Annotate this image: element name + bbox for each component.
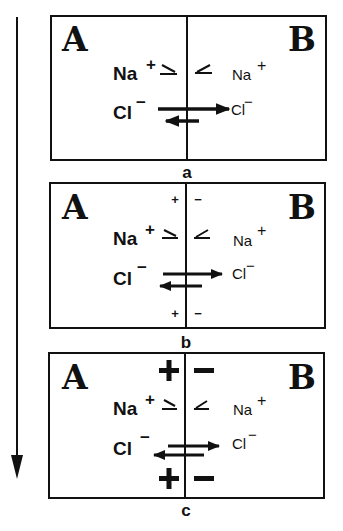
cl-left-label: Cl — [113, 268, 132, 289]
na-half-arrow-left-icon — [194, 401, 209, 409]
na-half-arrow-right-icon — [162, 230, 178, 238]
na-half-arrow-left-icon — [194, 230, 210, 238]
na-left-label: Na — [113, 63, 138, 84]
membrane-charge-bottom-right: − — [194, 306, 202, 321]
na-right-charge: + — [257, 392, 266, 409]
panel-c-caption: c — [181, 501, 190, 520]
compartment-a-label: A — [61, 20, 88, 59]
na-right-label: Na — [233, 232, 253, 249]
na-left-charge: + — [145, 220, 155, 239]
membrane-charge-minus-icon — [194, 476, 214, 481]
panel-frame — [50, 183, 325, 328]
compartment-a-label: A — [61, 358, 88, 397]
compartment-b-label: B — [288, 20, 316, 59]
na-left-charge: + — [146, 55, 156, 74]
membrane-charge-minus-icon — [194, 368, 214, 373]
panel-a-caption: a — [182, 163, 192, 182]
na-right-label: Na — [232, 66, 252, 83]
compartment-b-label: B — [288, 188, 316, 227]
na-left-label: Na — [113, 398, 138, 419]
cl-right-charge: − — [248, 426, 257, 443]
cl-left-charge: − — [137, 258, 147, 277]
membrane-charge-plus-icon — [159, 468, 179, 489]
na-right-charge: + — [257, 57, 266, 74]
panel-frame — [51, 16, 326, 160]
cl-left-label: Cl — [113, 102, 132, 123]
na-half-arrow-right-icon — [160, 65, 177, 74]
na-half-arrow-right-icon — [162, 400, 177, 409]
panel-c: A B Na + Na + Cl − Cl − c — [49, 353, 324, 520]
na-left-label: Na — [113, 228, 138, 249]
compartment-b-label: B — [288, 358, 316, 397]
cl-right-label: Cl — [232, 435, 246, 452]
na-right-charge: + — [257, 222, 266, 239]
na-half-arrow-left-icon — [195, 65, 212, 73]
panel-frame — [49, 353, 324, 498]
membrane-potential-diagram: A B Na + Na + Cl − Cl − a A B + − + − — [0, 0, 343, 531]
cl-right-label: Cl — [232, 265, 246, 282]
cl-right-charge: − — [244, 93, 253, 110]
panel-b-caption: b — [181, 333, 191, 352]
na-right-label: Na — [233, 401, 253, 418]
cl-left-charge: − — [136, 93, 146, 112]
membrane-charge-bottom-left: + — [171, 306, 179, 321]
membrane-charge-top-right: − — [194, 192, 202, 207]
time-arrow-down-icon — [11, 17, 23, 479]
compartment-a-label: A — [61, 188, 88, 227]
panel-a: A B Na + Na + Cl − Cl − a — [51, 16, 326, 182]
membrane-charge-top-left: + — [171, 192, 179, 207]
membrane-charge-plus-icon — [159, 360, 179, 381]
cl-left-label: Cl — [113, 438, 132, 459]
cl-left-charge: − — [140, 428, 150, 447]
na-left-charge: + — [145, 390, 155, 409]
panel-b: A B + − + − Na + Na + Cl − Cl − b — [50, 183, 325, 352]
cl-right-charge: − — [246, 257, 255, 274]
